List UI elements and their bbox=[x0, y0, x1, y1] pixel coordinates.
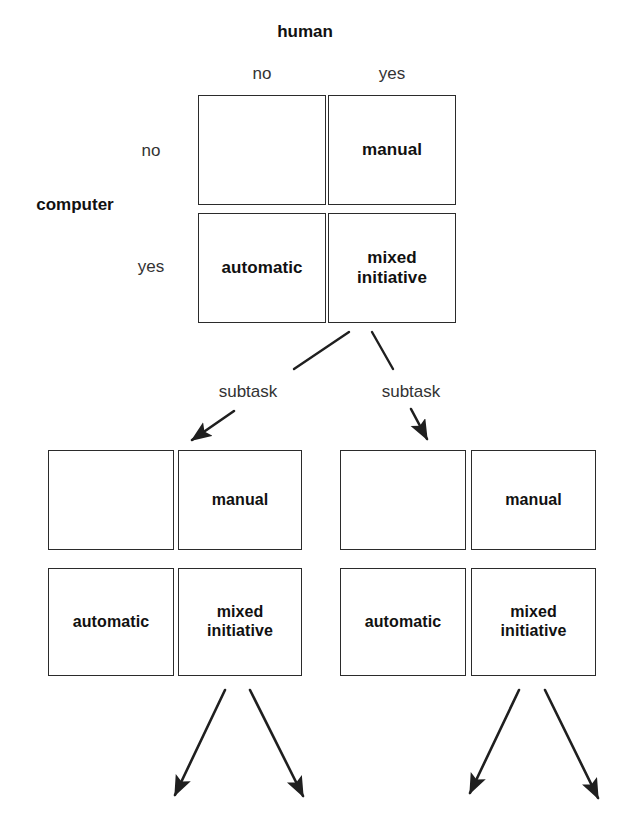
cell-right-yes-yes-label: mixed initiative bbox=[501, 603, 567, 641]
connector-root-left-stub bbox=[294, 332, 349, 369]
cell-root-yes-yes-label: mixed initiative bbox=[357, 248, 427, 288]
cell-root-no-no[interactable] bbox=[198, 95, 326, 205]
edge-label-subtask-right: subtask bbox=[382, 382, 441, 402]
cell-root-yes-no[interactable]: automatic bbox=[198, 213, 326, 323]
connector-root-right-stub bbox=[372, 332, 393, 369]
cell-left-no-yes[interactable]: manual bbox=[178, 450, 302, 550]
cell-right-no-no[interactable] bbox=[340, 450, 466, 550]
cell-right-no-yes-label: manual bbox=[505, 491, 562, 510]
axis-title-computer: computer bbox=[36, 195, 113, 215]
axis-title-human: human bbox=[277, 22, 333, 42]
cell-left-yes-yes[interactable]: mixed initiative bbox=[178, 568, 302, 676]
column-tick-yes: yes bbox=[379, 64, 405, 84]
cell-right-yes-yes[interactable]: mixed initiative bbox=[471, 568, 596, 676]
cell-left-no-no[interactable] bbox=[48, 450, 174, 550]
cell-right-yes-no-label: automatic bbox=[365, 613, 441, 632]
cell-left-yes-no[interactable]: automatic bbox=[48, 568, 174, 676]
cell-left-yes-no-label: automatic bbox=[73, 613, 149, 632]
cell-root-no-yes-label: manual bbox=[362, 140, 422, 160]
arrow-right-descend-1 bbox=[470, 690, 519, 793]
column-tick-no: no bbox=[253, 64, 272, 84]
cell-root-yes-yes[interactable]: mixed initiative bbox=[328, 213, 456, 323]
cell-left-yes-yes-label: mixed initiative bbox=[207, 603, 273, 641]
row-tick-yes: yes bbox=[138, 257, 164, 277]
cell-left-no-yes-label: manual bbox=[212, 491, 269, 510]
cell-root-no-yes[interactable]: manual bbox=[328, 95, 456, 205]
mixed-initiative-taxonomy-diagram: human computer no yes no yes manual auto… bbox=[0, 0, 635, 822]
cell-right-yes-no[interactable]: automatic bbox=[340, 568, 466, 676]
arrow-subtask-left bbox=[192, 411, 234, 440]
edge-label-subtask-left: subtask bbox=[219, 382, 278, 402]
cell-right-no-yes[interactable]: manual bbox=[471, 450, 596, 550]
arrow-left-descend-2 bbox=[250, 690, 303, 796]
row-tick-no: no bbox=[142, 141, 161, 161]
arrow-left-descend-1 bbox=[175, 690, 225, 795]
cell-root-yes-no-label: automatic bbox=[221, 258, 302, 278]
arrow-subtask-right bbox=[411, 409, 427, 439]
arrow-right-descend-2 bbox=[545, 690, 598, 798]
